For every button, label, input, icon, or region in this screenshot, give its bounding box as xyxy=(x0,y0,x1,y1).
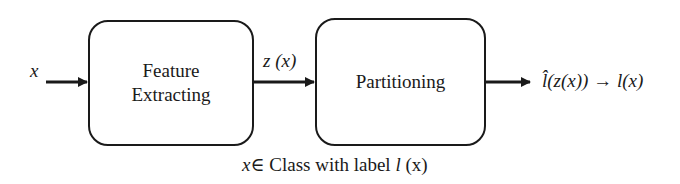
feature-extracting-block: Feature Extracting xyxy=(88,20,254,146)
feature-extracting-line1: Feature xyxy=(131,59,210,83)
output-tail: (x) xyxy=(622,70,643,91)
partitioning-label: Partitioning xyxy=(356,70,446,94)
partitioning-block: Partitioning xyxy=(315,18,486,146)
caption-text: ∈ Class with label xyxy=(250,154,395,175)
output-label: l̂(z(x)) → l(x) xyxy=(542,70,643,92)
feature-extracting-line2: Extracting xyxy=(131,83,210,107)
caption-suffix: (x) xyxy=(401,154,428,175)
middle-edge-label: z (x) xyxy=(263,50,296,72)
input-label: x xyxy=(30,60,38,82)
caption: x∈ Class with label l (x) xyxy=(242,153,428,176)
output-rest: (z(x)) → xyxy=(547,70,617,91)
